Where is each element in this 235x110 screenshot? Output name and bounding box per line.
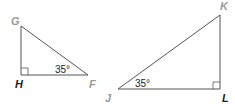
triangle-jkl: K J L 35° — [105, 0, 229, 104]
triangle-ghf: G H F 35° — [11, 15, 96, 90]
right-angle-marker-l — [213, 82, 220, 89]
vertex-label-k: K — [220, 0, 229, 12]
vertex-label-l: L — [222, 92, 229, 104]
diagram-svg: G H F 35° K J L 35° — [0, 0, 235, 110]
vertex-label-j: J — [105, 92, 112, 104]
right-angle-marker-h — [21, 68, 28, 75]
angle-label-f: 35° — [55, 64, 70, 75]
vertex-label-f: F — [89, 78, 96, 90]
similar-triangles-diagram: G H F 35° K J L 35° — [0, 0, 235, 110]
vertex-label-g: G — [11, 15, 20, 27]
angle-label-j: 35° — [135, 78, 150, 89]
vertex-label-h: H — [15, 78, 24, 90]
